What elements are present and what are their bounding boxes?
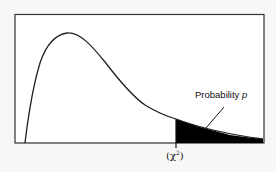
chi-square-diagram: Probability p (χ2): [0, 0, 276, 172]
chi-square-critical-label: (χ2): [166, 149, 184, 161]
chi-open: (χ: [166, 150, 176, 161]
probability-variable: p: [242, 89, 247, 100]
plot-frame: [15, 15, 264, 144]
probability-label: Probability p: [195, 89, 247, 100]
probability-text: Probability: [195, 89, 242, 100]
chi-close: ): [180, 150, 184, 161]
diagram-canvas: [0, 0, 276, 172]
